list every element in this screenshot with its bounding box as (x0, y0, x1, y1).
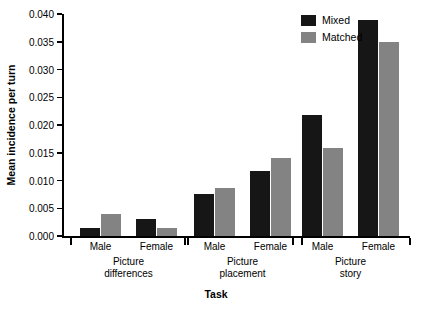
x-axis-group-label: Pictureplacement (198, 256, 288, 279)
x-axis-group-divider (409, 238, 411, 245)
y-axis-tick (57, 13, 62, 15)
bar-mixed (358, 20, 378, 236)
x-axis-title: Task (0, 288, 432, 300)
y-axis-tick-label: 0.025 (29, 92, 54, 103)
x-axis-category-label: Female (349, 241, 409, 252)
x-axis-group-divider (70, 238, 72, 245)
y-axis-tick (57, 69, 62, 71)
y-axis-tick (57, 152, 62, 154)
y-axis-tick (57, 124, 62, 126)
y-axis-tick-label: 0.015 (29, 147, 54, 158)
y-axis-tick-label: 0.040 (29, 9, 54, 20)
y-axis-tick (57, 208, 62, 210)
legend: Mixed Matched (301, 14, 362, 48)
x-axis-group-divider (187, 238, 189, 245)
x-axis-group-divider (184, 238, 186, 245)
x-axis-category-label: Male (71, 241, 131, 252)
x-axis-group-divider (301, 238, 303, 245)
y-axis-tick (57, 235, 62, 237)
y-axis-tick-label: 0.005 (29, 203, 54, 214)
y-axis-tick-label: 0.010 (29, 175, 54, 186)
bar-mixed (136, 219, 156, 236)
legend-swatch-matched (301, 32, 316, 43)
legend-item-mixed: Mixed (301, 14, 362, 26)
bar-matched (379, 42, 399, 236)
y-axis-tick-label: 0.030 (29, 64, 54, 75)
y-axis-tick (57, 180, 62, 182)
bar-mixed (80, 228, 100, 236)
legend-swatch-mixed (301, 15, 316, 26)
y-axis-tick (57, 41, 62, 43)
x-axis-group-label: Picturestory (306, 256, 396, 279)
legend-label-mixed: Mixed (322, 14, 350, 26)
legend-label-matched: Matched (322, 31, 362, 43)
bar-mixed (194, 194, 214, 236)
legend-item-matched: Matched (301, 31, 362, 43)
bar-mixed (302, 115, 322, 236)
bar-mixed (250, 171, 270, 236)
x-axis-category-label: Female (127, 241, 187, 252)
y-axis-line (62, 14, 64, 236)
x-axis-category-label: Male (185, 241, 245, 252)
x-axis-group-divider (292, 238, 294, 245)
bar-matched (157, 228, 177, 236)
bar-matched (271, 158, 291, 236)
x-axis-group-label: Picturedifferences (84, 256, 174, 279)
y-axis-tick (57, 97, 62, 99)
bar-chart: Mean incidence per turn 0.0000.0050.0100… (0, 0, 432, 310)
bar-matched (323, 148, 343, 236)
bar-matched (101, 214, 121, 236)
y-axis-tick-label: 0.020 (29, 120, 54, 131)
y-axis-tick-label: 0.035 (29, 36, 54, 47)
y-axis-tick-label: 0.000 (29, 231, 54, 242)
y-axis-title: Mean incidence per turn (4, 30, 18, 220)
bar-matched (215, 188, 235, 236)
